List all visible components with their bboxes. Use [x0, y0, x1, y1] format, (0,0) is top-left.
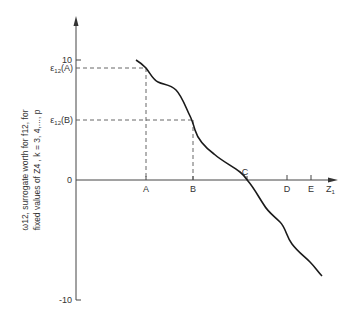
y-axis-arrow-icon [74, 16, 79, 26]
x-label-c: C [242, 167, 249, 177]
epsilon-b-label: ε12(B) [50, 115, 73, 126]
x-label-b: B [190, 184, 196, 194]
y-axis-title-line2: fixed values of Z4 , k = 3, 4,..., p [32, 109, 42, 230]
y-tick-label-neg10: -10 [59, 295, 72, 305]
x-label-a: A [143, 184, 149, 194]
surrogate-worth-chart: 10 0 -10 ε12(A) ε12(B) A B C D E Z1 ω12,… [0, 0, 352, 320]
y-tick-label-0: 0 [67, 175, 72, 185]
x-axis-label-z1: Z1 [326, 184, 336, 195]
x-label-d: D [284, 184, 291, 194]
x-label-e: E [308, 184, 314, 194]
y-axis-title-line1: ω12, surrogate worth for f12, for [20, 109, 30, 230]
y-axis-title: ω12, surrogate worth for f12, for fixed … [20, 109, 42, 230]
surrogate-worth-curve [136, 60, 322, 276]
dashed-guides [76, 68, 193, 180]
epsilon-a-label: ε12(A) [50, 63, 73, 74]
x-axis-arrow-icon [328, 178, 338, 183]
